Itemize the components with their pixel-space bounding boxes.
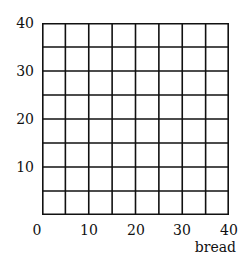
x-axis-label: bread <box>195 239 236 255</box>
y-tick-10: 10 <box>4 160 34 174</box>
grid-plot-area <box>42 23 229 215</box>
x-tick-40: 40 <box>214 223 244 237</box>
y-tick-30: 30 <box>4 64 34 78</box>
x-tick-10: 10 <box>74 223 104 237</box>
y-tick-20: 20 <box>4 112 34 126</box>
y-tick-40: 40 <box>4 16 34 30</box>
x-tick-0: 0 <box>22 223 52 237</box>
x-tick-30: 30 <box>167 223 197 237</box>
x-tick-20: 20 <box>121 223 151 237</box>
